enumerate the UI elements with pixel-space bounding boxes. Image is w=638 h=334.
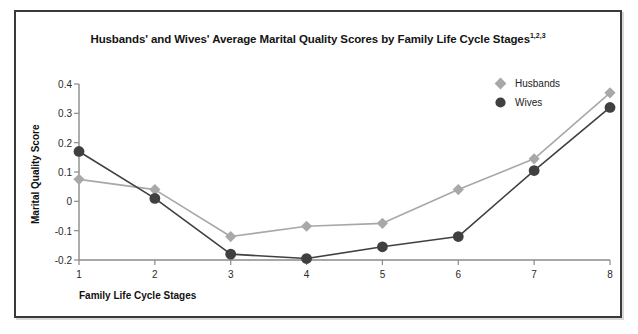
data-point-marker [301, 221, 312, 232]
data-point-marker [605, 102, 616, 113]
circle-marker-icon [491, 96, 509, 109]
legend-label-wives: Wives [515, 97, 542, 108]
x-axis-tick-label: 6 [456, 269, 462, 280]
y-axis-tick-label: 0.1 [36, 167, 72, 178]
chart-legend: Husbands Wives [491, 75, 560, 113]
y-axis-tick-label: 0.2 [36, 137, 72, 148]
y-axis-tick-label: 0 [36, 196, 72, 207]
legend-item-wives: Wives [491, 94, 560, 111]
data-point-marker [453, 231, 464, 242]
y-axis-tick-label: -0.1 [36, 225, 72, 236]
data-point-marker [225, 249, 236, 260]
data-point-marker [529, 165, 540, 176]
data-point-marker [377, 241, 388, 252]
series-line [79, 107, 610, 258]
figure-frame: Husbands' and Wives' Average Marital Qua… [14, 10, 622, 318]
y-axis-tick-label: 0.4 [36, 79, 72, 90]
y-axis-tick-label: -0.2 [36, 255, 72, 266]
data-point-marker [149, 193, 160, 204]
series-wives [74, 102, 616, 264]
data-point-marker [73, 174, 84, 185]
x-axis-tick-label: 3 [228, 269, 234, 280]
x-axis-title: Family Life Cycle Stages [79, 290, 196, 301]
x-axis-tick-label: 7 [531, 269, 537, 280]
x-axis-tick-label: 5 [380, 269, 386, 280]
legend-label-husbands: Husbands [515, 78, 560, 89]
series-line [79, 93, 610, 237]
data-point-marker [301, 253, 312, 264]
legend-item-husbands: Husbands [491, 75, 560, 92]
x-axis-tick-label: 8 [607, 269, 613, 280]
x-axis-tick-label: 4 [304, 269, 310, 280]
data-point-marker [377, 218, 388, 229]
data-point-marker [453, 184, 464, 195]
data-point-marker [74, 146, 85, 157]
data-point-marker [225, 231, 236, 242]
diamond-marker-icon [491, 77, 509, 90]
y-axis-tick-label: 0.3 [36, 108, 72, 119]
x-axis-tick-label: 1 [76, 269, 82, 280]
x-axis-tick-label: 2 [152, 269, 158, 280]
